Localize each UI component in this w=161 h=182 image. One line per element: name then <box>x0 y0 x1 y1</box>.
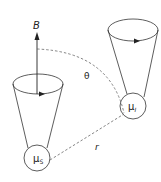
angle-arc-dashed <box>37 49 124 113</box>
right-precession-direction-icon <box>134 39 140 44</box>
magnetic-field-vector: B <box>33 20 40 94</box>
right-cone-side-right <box>144 30 158 97</box>
distance-line-dashed <box>50 114 124 160</box>
angle-theta-label: θ <box>84 71 90 81</box>
dipolar-coupling-diagram: μS B μI θ r <box>0 0 161 182</box>
field-arrow-head-icon <box>35 32 40 40</box>
left-cone-side-left <box>13 84 28 148</box>
right-cone-top-ellipse <box>108 19 158 41</box>
right-precession-cone: μI <box>108 19 158 119</box>
field-label: B <box>33 20 40 31</box>
right-cone-side-left <box>108 30 127 94</box>
left-cone-side-right <box>47 84 63 148</box>
left-cone-top-ellipse <box>13 74 63 94</box>
left-precession-direction-icon <box>39 92 45 97</box>
distance-r-label: r <box>95 142 100 152</box>
